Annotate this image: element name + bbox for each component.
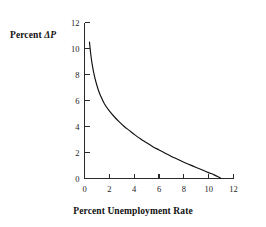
x-tick-label-6: 6 — [157, 184, 161, 194]
curve-1 — [89, 42, 221, 179]
x-tick-label-10: 10 — [204, 184, 213, 194]
y-tick-label-6: 6 — [75, 96, 79, 106]
x-tick-label-4: 4 — [132, 184, 137, 194]
y-axis-tick-labels: 024681012 — [71, 18, 80, 184]
x-axis-title: Percent Unemployment Rate — [0, 206, 266, 216]
y-tick-label-0: 0 — [75, 174, 79, 184]
data-series — [89, 42, 221, 179]
x-axis-ticks — [109, 174, 233, 179]
x-tick-label-8: 8 — [182, 184, 186, 194]
y-axis-ticks — [85, 23, 90, 179]
y-tick-label-4: 4 — [75, 122, 80, 132]
y-tick-label-8: 8 — [75, 70, 79, 80]
y-tick-label-2: 2 — [75, 148, 79, 158]
y-axis-title: Percent ΔP — [10, 30, 56, 40]
y-tick-label-12: 12 — [71, 18, 80, 28]
y-axis-title-symbol: ΔP — [44, 30, 56, 40]
x-tick-label-2: 2 — [107, 184, 111, 194]
y-tick-label-10: 10 — [71, 44, 80, 54]
axes — [85, 23, 234, 179]
x-axis-tick-labels: 024681012 — [82, 184, 237, 194]
x-tick-label-12: 12 — [229, 184, 238, 194]
y-axis-title-text: Percent — [10, 30, 44, 40]
phillips-curve-figure: 024681012 024681012 Percent ΔP Percent U… — [0, 0, 266, 227]
x-tick-label-0: 0 — [82, 184, 86, 194]
